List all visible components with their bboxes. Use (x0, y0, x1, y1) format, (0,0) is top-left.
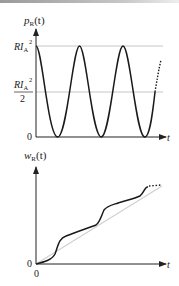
bottom-y-axis-label: wR(t) (24, 149, 47, 163)
x-origin-label: 0 (34, 268, 39, 279)
top-chart: pR(t) t RIA 2 RIA 2 2 0 (13, 14, 170, 143)
power-energy-diagram: pR(t) t RIA 2 RIA 2 2 0 wR(t) t 0 0 (0, 0, 179, 286)
power-curve-continuation (155, 60, 161, 92)
top-x-axis-label: t (167, 132, 170, 143)
tick-max-label: RIA (13, 41, 28, 53)
y-origin-label: 0 (27, 258, 32, 269)
power-curve (36, 46, 155, 137)
tick-half-superscript: 2 (29, 76, 32, 83)
bottom-chart: wR(t) t 0 0 (24, 149, 170, 279)
tick-half-denominator: 2 (20, 93, 25, 104)
top-y-axis-label: pR(t) (23, 14, 45, 28)
energy-curve (36, 187, 148, 264)
tick-zero-label: 0 (27, 131, 32, 142)
bottom-x-axis-label: t (167, 259, 170, 270)
tick-half-numerator: RIA (13, 79, 28, 91)
tick-max-superscript: 2 (29, 38, 32, 45)
energy-curve-continuation (149, 185, 161, 186)
